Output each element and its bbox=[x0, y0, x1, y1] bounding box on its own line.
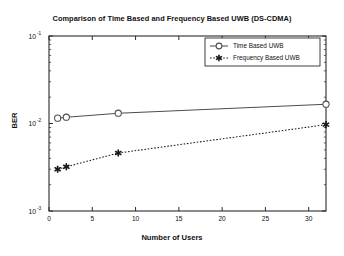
legend: Time Based UWBFrequency Based UWB bbox=[205, 38, 320, 66]
chart-figure: Comparison of Time Based and Frequency B… bbox=[0, 0, 344, 256]
series-line bbox=[58, 125, 326, 170]
series-1 bbox=[55, 101, 330, 121]
plot-area: 05101520253010-310-210-1Time Based UWBFr… bbox=[0, 0, 344, 256]
y-tick-label-exponent: -3 bbox=[37, 206, 42, 211]
data-point-marker bbox=[323, 101, 329, 107]
x-tick-label: 30 bbox=[305, 215, 313, 222]
y-tick-label-mantissa: 10 bbox=[28, 33, 36, 40]
y-tick-label-exponent: -2 bbox=[37, 118, 42, 123]
legend-label-1: Time Based UWB bbox=[233, 42, 284, 49]
x-tick-label: 0 bbox=[47, 215, 51, 222]
x-tick-label: 25 bbox=[262, 215, 270, 222]
series-line bbox=[58, 104, 326, 118]
data-point-marker bbox=[55, 166, 60, 172]
x-tick-label: 5 bbox=[90, 215, 94, 222]
data-point-marker bbox=[63, 114, 69, 120]
data-point-marker bbox=[115, 110, 121, 116]
x-tick-label: 15 bbox=[175, 215, 183, 222]
y-tick-label: 10-3 bbox=[28, 206, 41, 215]
legend-label-2: Frequency Based UWB bbox=[233, 54, 300, 62]
y-tick-label: 10-1 bbox=[28, 31, 41, 40]
series-2 bbox=[55, 122, 329, 173]
data-point-marker bbox=[216, 43, 222, 49]
y-tick-label-mantissa: 10 bbox=[28, 120, 36, 127]
y-tick-label-exponent: -1 bbox=[37, 31, 42, 36]
y-tick-label-mantissa: 10 bbox=[28, 208, 36, 215]
x-tick-label: 20 bbox=[218, 215, 226, 222]
y-tick-label: 10-2 bbox=[28, 118, 41, 127]
x-tick-label: 10 bbox=[132, 215, 140, 222]
data-point-marker bbox=[55, 115, 61, 121]
